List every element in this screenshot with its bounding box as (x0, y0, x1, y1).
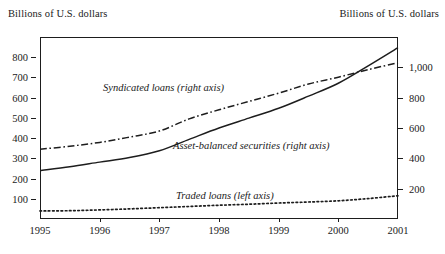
left-axis-ticks: 100200300400500600700800 (0, 37, 36, 219)
chart-figure: Billions of U.S. dollars Billions of U.S… (0, 0, 445, 254)
right-tick-mark (398, 98, 403, 99)
x-tick-label: 1996 (89, 225, 110, 236)
right-tick-label: 800 (409, 92, 425, 103)
x-tick-label: 1995 (30, 225, 51, 236)
left-tick-label: 200 (12, 173, 28, 184)
left-tick-label: 700 (12, 72, 28, 83)
right-tick-label: 400 (409, 153, 425, 164)
right-tick-mark (398, 128, 403, 129)
x-axis-ticks: 1995199619971998199920002001 (40, 222, 398, 242)
left-tick-label: 500 (12, 112, 28, 123)
right-tick-label: 600 (409, 123, 425, 134)
right-tick-label: 200 (409, 183, 425, 194)
left-tick-mark (31, 77, 36, 78)
left-tick-mark (31, 199, 36, 200)
right-axis-ticks: 2004006008001,000 (404, 37, 445, 219)
x-tick-label: 1999 (268, 225, 289, 236)
left-tick-mark (31, 57, 36, 58)
series-line-dash-dot (40, 63, 398, 149)
left-tick-label: 300 (12, 153, 28, 164)
left-axis-title: Billions of U.S. dollars (8, 8, 108, 19)
left-tick-label: 100 (12, 193, 28, 204)
series-annotation: Syndicated loans (right axis) (103, 82, 224, 93)
series-annotation: Asset-balanced securities (right axis) (173, 140, 330, 151)
left-tick-label: 800 (12, 52, 28, 63)
x-tick-label: 1998 (209, 225, 230, 236)
right-axis-title: Billions of U.S. dollars (339, 8, 439, 19)
left-tick-mark (31, 158, 36, 159)
right-tick-mark (398, 189, 403, 190)
left-tick-mark (31, 98, 36, 99)
left-tick-mark (31, 179, 36, 180)
left-tick-mark (31, 118, 36, 119)
x-tick-label: 2000 (328, 225, 349, 236)
left-tick-mark (31, 138, 36, 139)
x-tick-label: 1997 (149, 225, 170, 236)
right-tick-mark (398, 158, 403, 159)
right-tick-label: 1,000 (409, 62, 433, 73)
left-tick-label: 600 (12, 92, 28, 103)
series-annotation: Traded loans (left axis) (176, 190, 274, 201)
left-tick-label: 400 (12, 133, 28, 144)
right-tick-mark (398, 67, 403, 68)
x-tick-label: 2001 (388, 225, 409, 236)
